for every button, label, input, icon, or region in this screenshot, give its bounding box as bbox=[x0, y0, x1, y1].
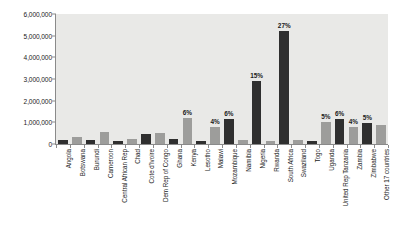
bar-value-label: 4% bbox=[349, 118, 358, 125]
x-axis-tick-mark bbox=[84, 145, 85, 148]
bar-value-label: 4% bbox=[210, 118, 219, 125]
y-axis-tick-label: 3,000,000 bbox=[2, 76, 52, 83]
x-axis-tick-mark bbox=[388, 145, 389, 148]
y-axis-tick-mark bbox=[52, 79, 56, 80]
x-axis-category-label: United Rep Tanzania bbox=[342, 149, 349, 206]
bar-value-label: 5% bbox=[321, 113, 330, 120]
bar bbox=[349, 127, 359, 144]
bar-value-label: 27% bbox=[278, 22, 291, 29]
x-axis-tick-mark bbox=[194, 145, 195, 148]
x-axis-tick-mark bbox=[333, 145, 334, 148]
x-axis-tick-mark bbox=[70, 145, 71, 148]
bar bbox=[279, 31, 289, 144]
x-axis-category-label: Namibia bbox=[245, 149, 252, 172]
x-axis-category-label: Dem Rep of Congo bbox=[162, 149, 169, 202]
bar-value-label: 6% bbox=[335, 110, 344, 117]
bars-container bbox=[56, 14, 388, 144]
x-axis-category-label: Cote d'Ivoire bbox=[148, 149, 155, 184]
x-axis-category-label: Botswana bbox=[79, 149, 86, 176]
bar-value-label: 15% bbox=[250, 72, 263, 79]
x-axis-category-label: Uganda bbox=[328, 149, 335, 171]
x-axis-tick-mark bbox=[56, 145, 57, 148]
bar-value-label: 6% bbox=[224, 110, 233, 117]
x-axis-tick-mark bbox=[98, 145, 99, 148]
x-axis-category-label: Lesotho bbox=[204, 149, 211, 171]
y-axis-tick-label: 0 bbox=[2, 141, 52, 148]
x-axis-tick-mark bbox=[264, 145, 265, 148]
x-axis-tick-mark bbox=[374, 145, 375, 148]
x-axis-category-label: Chad bbox=[134, 149, 141, 164]
bar bbox=[224, 119, 234, 144]
x-axis-tick-mark bbox=[305, 145, 306, 148]
y-axis-tick-label: 1,000,000 bbox=[2, 119, 52, 126]
bar bbox=[183, 118, 193, 144]
bar bbox=[376, 125, 386, 145]
x-axis-tick-mark bbox=[347, 145, 348, 148]
x-axis-tick-mark bbox=[250, 145, 251, 148]
bar bbox=[252, 81, 262, 144]
plot-area bbox=[56, 14, 388, 144]
bar-chart: 01,000,0002,000,0003,000,0004,000,0005,0… bbox=[0, 0, 405, 239]
x-axis-tick-mark bbox=[360, 145, 361, 148]
x-axis-category-label: Burundi bbox=[93, 149, 100, 170]
x-axis-tick-mark bbox=[139, 145, 140, 148]
y-axis-tick-mark bbox=[52, 57, 56, 58]
x-axis-category-label: Ghana bbox=[176, 149, 183, 168]
y-axis-tick-mark bbox=[52, 144, 56, 145]
x-axis-tick-mark bbox=[125, 145, 126, 148]
y-axis-tick-mark bbox=[52, 100, 56, 101]
y-axis-tick-label: 6,000,000 bbox=[2, 11, 52, 18]
y-axis-tick-label: 4,000,000 bbox=[2, 54, 52, 61]
x-axis-category-label: Angola bbox=[65, 149, 72, 168]
x-axis-category-label: Other 17 countries bbox=[383, 149, 390, 200]
x-axis-tick-mark bbox=[111, 145, 112, 148]
y-axis-labels: 01,000,0002,000,0003,000,0004,000,0005,0… bbox=[0, 0, 52, 239]
x-axis-category-label: Zimbabwe bbox=[370, 149, 377, 178]
bar bbox=[321, 122, 331, 144]
x-axis-category-label: Kenya bbox=[190, 149, 197, 167]
x-axis-category-label: South Africa bbox=[287, 149, 294, 182]
x-axis-tick-mark bbox=[181, 145, 182, 148]
x-axis-category-label: Cameroon bbox=[107, 149, 114, 178]
bar bbox=[362, 123, 372, 144]
x-axis-tick-mark bbox=[236, 145, 237, 148]
x-axis-category-label: Malawi bbox=[217, 149, 224, 168]
x-axis-category-label: Mozambique bbox=[231, 149, 238, 185]
bar bbox=[100, 132, 110, 144]
x-axis-tick-mark bbox=[277, 145, 278, 148]
x-axis-category-label: Togo bbox=[314, 149, 321, 162]
x-axis-tick-mark bbox=[208, 145, 209, 148]
bar bbox=[210, 127, 220, 144]
x-axis-tick-mark bbox=[291, 145, 292, 148]
y-axis-tick-mark bbox=[52, 122, 56, 123]
bar-value-label: 6% bbox=[183, 109, 192, 116]
bar-value-label: 5% bbox=[363, 114, 372, 121]
x-axis-category-label: Swaziland bbox=[300, 149, 307, 177]
y-axis-tick-label: 2,000,000 bbox=[2, 97, 52, 104]
bar bbox=[155, 133, 165, 144]
x-axis-category-label: Zambia bbox=[356, 149, 363, 170]
x-axis-tick-mark bbox=[222, 145, 223, 148]
y-axis-tick-label: 5,000,000 bbox=[2, 32, 52, 39]
x-axis-category-label: Nigeria bbox=[259, 149, 266, 169]
bar bbox=[141, 134, 151, 144]
y-axis-tick-mark bbox=[52, 14, 56, 15]
y-axis-tick-mark bbox=[52, 35, 56, 36]
x-axis-category-label: Rwanda bbox=[273, 149, 280, 172]
bar bbox=[72, 137, 82, 144]
bar bbox=[335, 119, 345, 144]
x-axis-tick-mark bbox=[319, 145, 320, 148]
x-axis-category-label: Central African Rep bbox=[121, 149, 128, 203]
x-axis-tick-mark bbox=[167, 145, 168, 148]
